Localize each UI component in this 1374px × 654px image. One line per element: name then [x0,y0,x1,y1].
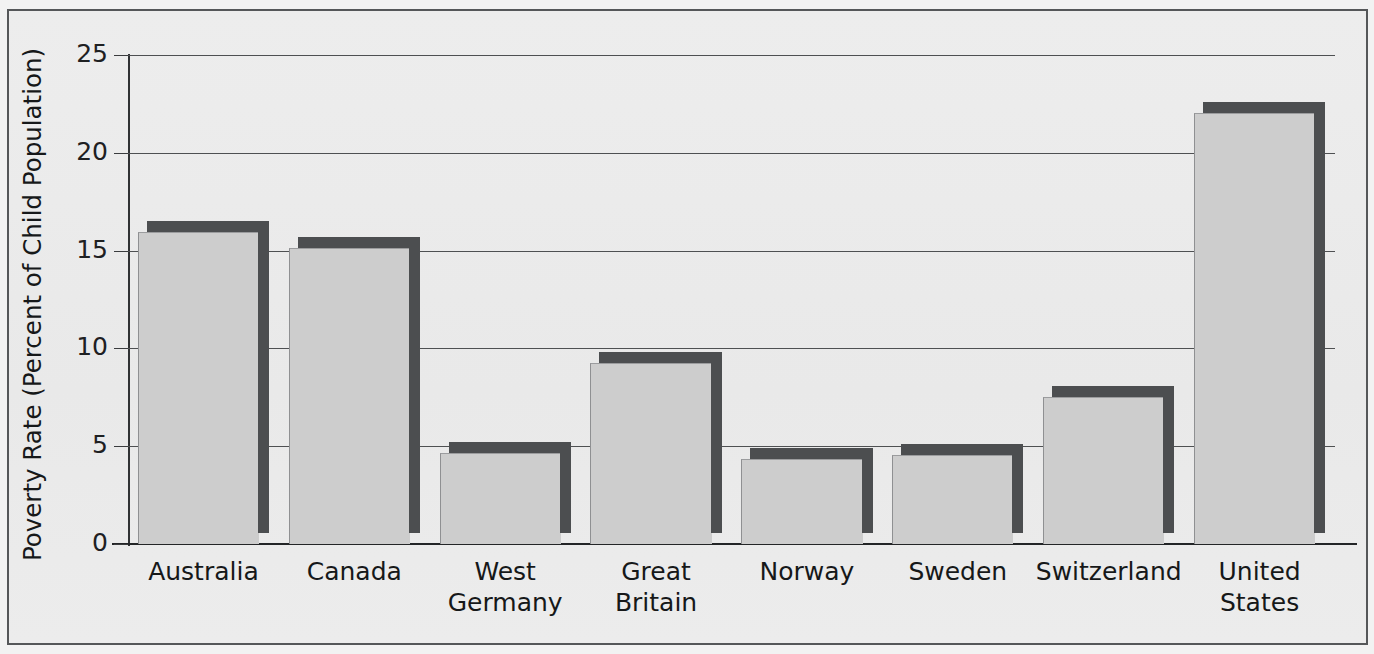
bar-face [440,453,561,544]
x-axis-tick-label-line: Norway [732,556,883,587]
bar-top-shadow [147,221,269,232]
y-axis-tick-mark [114,348,128,349]
bar-top-shadow [298,237,420,248]
x-axis-tick-label-line: United [1184,556,1335,587]
bar-top-shadow [449,442,571,453]
bar-side-shadow [409,237,420,533]
y-axis-tick-label: 0 [92,528,108,557]
y-axis-tick-mark [114,446,128,447]
bar [1194,102,1325,544]
y-axis-tick-labels: 0510152025 [60,0,108,654]
bar-side-shadow [560,442,571,533]
bar-top-shadow [1203,102,1325,113]
x-axis-tick-label-line: Switzerland [1033,556,1184,587]
x-axis-tick-label: UnitedStates [1184,556,1335,618]
bar [138,221,269,544]
bar [289,237,420,544]
gridline [128,55,1335,56]
x-axis-tick-label-line: Britain [581,587,732,618]
y-axis-tick-mark [114,55,128,56]
bar-side-shadow [1012,444,1023,533]
y-axis-tick-label: 15 [76,235,108,264]
x-axis-tick-label-line: Great [581,556,732,587]
y-axis-tick-label: 10 [76,332,108,361]
bar [892,444,1023,544]
bar-side-shadow [1163,386,1174,533]
bar-face [892,455,1013,544]
bar-top-shadow [599,352,721,363]
bar-top-shadow [1052,386,1174,397]
gridline [128,153,1335,154]
bar-side-shadow [711,352,722,533]
bar-face [1194,113,1315,544]
y-axis-tick-mark [114,153,128,154]
x-axis-tick-label: Switzerland [1033,556,1184,587]
bar-side-shadow [1314,102,1325,533]
x-axis-tick-label: Canada [279,556,430,587]
bar-top-shadow [901,444,1023,455]
y-axis-tick-label: 25 [76,39,108,68]
y-axis-tick-mark [114,544,128,545]
x-axis-tick-label: Sweden [882,556,1033,587]
x-axis-tick-label-line: Sweden [882,556,1033,587]
bar [1043,386,1174,544]
x-axis-tick-label-line: West [430,556,581,587]
x-axis-tick-label: WestGermany [430,556,581,618]
x-axis-tick-label: Australia [128,556,279,587]
y-axis-title: Poverty Rate (Percent of Child Populatio… [18,45,47,565]
y-axis-tick-label: 5 [92,430,108,459]
plot-area [128,55,1335,544]
bar-top-shadow [750,448,872,459]
x-axis-tick-label-line: Germany [430,587,581,618]
x-axis-tick-label: Norway [732,556,883,587]
bar-side-shadow [258,221,269,533]
bar [440,442,571,544]
x-axis-tick-label-line: Australia [128,556,279,587]
bar-face [741,459,862,544]
x-axis-tick-label: GreatBritain [581,556,732,618]
bar-face [1043,397,1164,544]
bar [741,448,872,544]
bar [590,352,721,544]
y-axis-tick-mark [114,251,128,252]
figure-container: Poverty Rate (Percent of Child Populatio… [0,0,1374,654]
bar-face [138,232,259,544]
y-axis-tick-label: 20 [76,137,108,166]
x-axis-tick-label-line: States [1184,587,1335,618]
bar-side-shadow [862,448,873,533]
bar-face [590,363,711,544]
x-axis-tick-label-line: Canada [279,556,430,587]
bar-face [289,248,410,544]
